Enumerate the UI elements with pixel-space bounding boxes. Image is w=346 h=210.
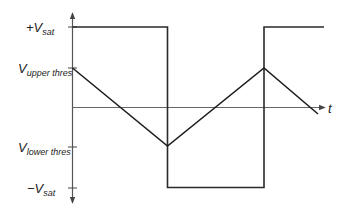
label-upper-thres: Vupper thres [18,60,72,76]
label-plus-vsat: +Vsat [26,19,54,35]
label-lower-thres: Vlower thres [18,139,71,155]
label-minus-vsat: −Vsat [27,180,55,196]
label-time: t [328,100,332,116]
